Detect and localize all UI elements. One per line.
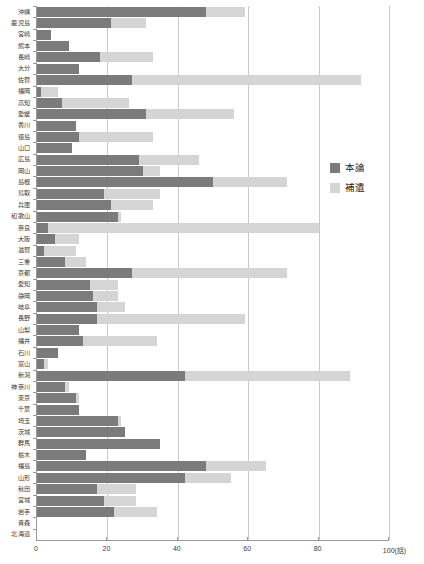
y-axis-label: 静岡 (0, 292, 30, 300)
y-axis-label: 宮城 (0, 496, 30, 504)
y-axis-label: 東京 (0, 394, 30, 402)
bar-segment-appendix (65, 382, 69, 392)
stacked-bar (37, 132, 153, 142)
y-axis-label: 兵庫 (0, 201, 30, 209)
bar-segment-appendix (104, 189, 160, 199)
bar-segment-appendix (41, 87, 59, 97)
bar-segment-main (37, 393, 76, 403)
bar-row (37, 313, 388, 324)
bar-row (37, 199, 388, 210)
y-axis-label: 鳥取 (0, 189, 30, 197)
bar-segment-main (37, 382, 65, 392)
legend-item-appendix: 補遺 (330, 180, 365, 196)
bar-segment-main (37, 223, 48, 233)
bar-segment-main (37, 325, 79, 335)
stacked-bar (37, 223, 319, 233)
bar-row (37, 426, 388, 437)
bar-segment-main (37, 189, 104, 199)
bar-segment-main (37, 143, 72, 153)
x-axis-tick (318, 537, 319, 541)
bar-row (37, 256, 388, 267)
stacked-bar (37, 189, 160, 199)
stacked-bar (37, 30, 51, 40)
bar-segment-main (37, 41, 69, 51)
y-axis-label: 鹿児島 (0, 19, 30, 27)
bar-segment-appendix (97, 314, 245, 324)
legend-item-main: 本論 (330, 160, 365, 176)
stacked-bar (37, 496, 136, 506)
bar-row (37, 97, 388, 108)
y-axis-label: 奈良 (0, 224, 30, 232)
stacked-bar (37, 177, 287, 187)
stacked-bar (37, 484, 136, 494)
bar-row (37, 358, 388, 369)
legend-label-appendix: 補遺 (345, 180, 365, 196)
bar-segment-appendix (146, 109, 234, 119)
bar-segment-appendix (185, 371, 350, 381)
bar-segment-appendix (114, 507, 156, 517)
stacked-bar (37, 507, 157, 517)
legend: 本論 補遺 (330, 160, 365, 200)
bar-row (37, 142, 388, 153)
bar-row (37, 51, 388, 62)
bar-segment-main (37, 507, 114, 517)
bar-segment-main (37, 336, 83, 346)
bar-segment-appendix (206, 7, 245, 17)
stacked-bar (37, 325, 79, 335)
bar-row (37, 517, 388, 528)
stacked-bar (37, 143, 72, 153)
bar-segment-appendix (111, 18, 146, 28)
x-axis-tick (36, 537, 37, 541)
bar-segment-main (37, 246, 44, 256)
bar-segment-main (37, 450, 86, 460)
stacked-bar (37, 257, 86, 267)
bar-segment-appendix (213, 177, 287, 187)
y-axis-label: 山形 (0, 474, 30, 482)
y-axis-label: 山口 (0, 144, 30, 152)
bar-row (37, 415, 388, 426)
y-axis-label: 大阪 (0, 235, 30, 243)
bar-segment-appendix (97, 484, 136, 494)
bar-row (37, 6, 388, 17)
bar-row (37, 267, 388, 278)
y-axis-label: 愛知 (0, 280, 30, 288)
y-axis-label: 徳島 (0, 133, 30, 141)
bar-row (37, 222, 388, 233)
y-axis-label: 北海道 (0, 530, 30, 538)
x-axis-tick (106, 537, 107, 541)
bar-row (37, 392, 388, 403)
bar-segment-main (37, 132, 79, 142)
stacked-bar (37, 64, 79, 74)
bar-segment-main (37, 371, 185, 381)
legend-swatch-appendix-icon (330, 183, 340, 193)
bar-segment-main (37, 98, 62, 108)
stacked-bar (37, 212, 121, 222)
bar-row (37, 472, 388, 483)
stacked-bar (37, 359, 48, 369)
bar-row (37, 245, 388, 256)
y-axis-labels: 沖縄鹿児島宮崎熊本長崎大分佐賀福岡高知愛媛香川徳島山口広島岡山島根鳥取兵庫和歌山… (0, 6, 36, 540)
y-axis-label: 青森 (0, 519, 30, 527)
stacked-bar (37, 7, 245, 17)
y-axis-label: 沖縄 (0, 8, 30, 16)
x-axis-label: 60 (243, 545, 251, 552)
bar-segment-appendix (100, 52, 153, 62)
stacked-bar (37, 109, 234, 119)
y-axis-label: 岐阜 (0, 303, 30, 311)
bar-segment-main (37, 212, 118, 222)
stacked-bar (37, 439, 160, 449)
bar-segment-main (37, 359, 44, 369)
bar-segment-appendix (104, 496, 136, 506)
bar-segment-appendix (79, 132, 153, 142)
bar-segment-main (37, 280, 90, 290)
bar-segment-appendix (185, 473, 231, 483)
bar-segment-main (37, 496, 104, 506)
bar-row (37, 483, 388, 494)
bar-segment-appendix (139, 155, 199, 165)
stacked-bar (37, 246, 76, 256)
stacked-bar (37, 450, 86, 460)
stacked-bar (37, 348, 58, 358)
legend-label-main: 本論 (345, 160, 365, 176)
bar-segment-main (37, 64, 79, 74)
x-axis-label: 100(話) (383, 545, 406, 555)
